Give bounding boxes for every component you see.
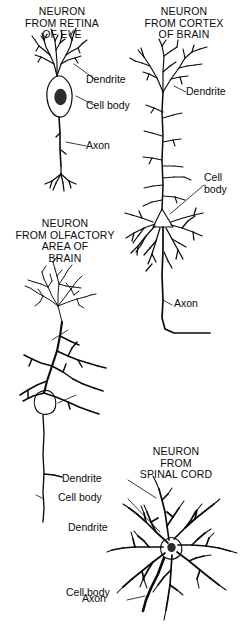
retina-dendrite-tuft xyxy=(32,28,87,76)
panel-neuron-spinal-cord: NEURON FROM SPINAL CORD xyxy=(106,440,246,637)
cortex-label-cell-body: Cell body xyxy=(204,172,227,195)
retina-label-axon: Axon xyxy=(86,139,110,151)
spinal-label-cell-body: Cell body xyxy=(58,491,102,503)
olfactory-axon xyxy=(43,415,62,522)
neuron-types-figure: NEURON FROM RETINA OF EYE xyxy=(0,0,246,637)
cortex-label-dendrite: Dendrite xyxy=(186,85,226,97)
spinal-label-dendrite: Dendrite xyxy=(62,472,102,484)
panel-neuron-retina: NEURON FROM RETINA OF EYE xyxy=(0,0,124,200)
olfactory-label-dendrite: Dendrite xyxy=(68,521,108,533)
cortex-axon xyxy=(162,227,210,333)
cortex-basal-dendrites xyxy=(125,208,203,271)
olfactory-primary-dendrite xyxy=(44,322,62,393)
panel-neuron-cortex: NEURON FROM CORTEX OF BRAIN xyxy=(122,0,246,360)
olfactory-glomerular-tuft xyxy=(25,257,96,322)
retina-axon xyxy=(59,117,61,166)
cortex-oblique-dendrites xyxy=(143,105,191,206)
cortex-label-axon: Axon xyxy=(174,297,198,309)
spinal-label-axon: Axon xyxy=(82,592,106,604)
olfactory-lateral-dendrites xyxy=(20,336,106,414)
cortex-leader-lines xyxy=(163,86,204,305)
spinal-neuron-drawing xyxy=(106,440,246,637)
retina-cell-body xyxy=(47,76,72,117)
cortex-cell-body xyxy=(153,209,173,227)
cortex-apical-dendrite xyxy=(162,92,163,210)
retina-label-dendrite: Dendrite xyxy=(86,73,126,85)
